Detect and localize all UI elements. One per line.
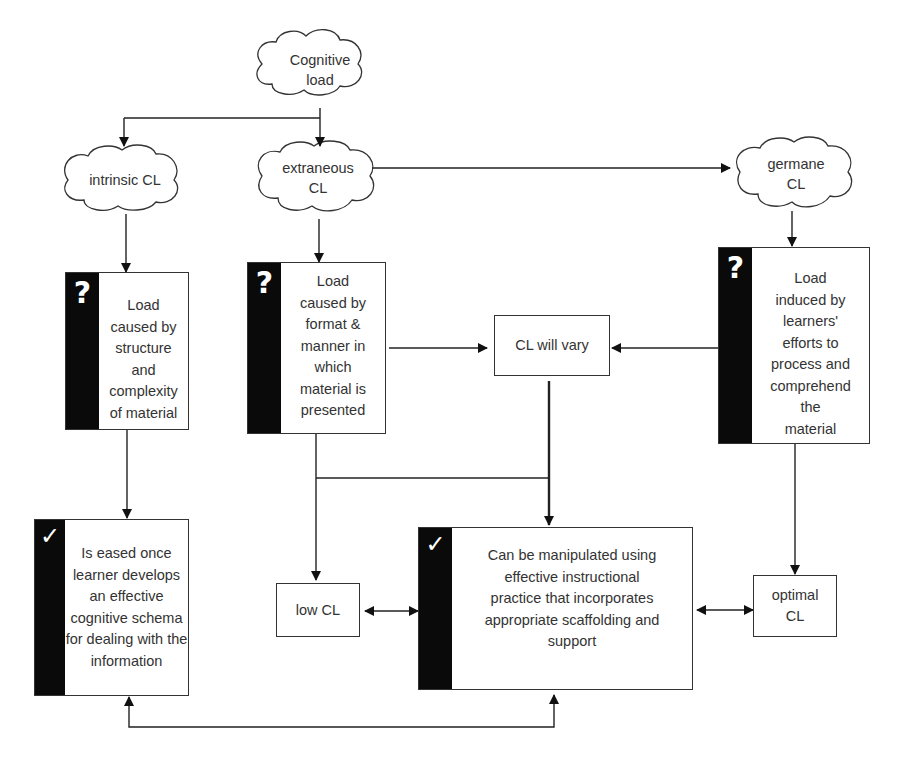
cl-will-vary-label: CL will vary — [515, 335, 589, 356]
text-line: cognitive schema — [66, 608, 188, 630]
checkmark-icon: ✓ — [35, 522, 65, 550]
root-label: Cognitive load — [270, 50, 370, 90]
optimal-cl-line2: CL — [772, 606, 819, 627]
text-line: Load — [109, 295, 178, 317]
root-label-line1: Cognitive — [270, 50, 370, 70]
intrinsic-description-bar: ? — [66, 273, 99, 429]
text-line: format & — [300, 314, 366, 336]
text-line: induced by — [770, 290, 851, 312]
text-line: caused by — [300, 293, 366, 315]
optimal-cl-box: optimal CL — [753, 575, 837, 637]
text-line: structure — [109, 338, 178, 360]
eased-outcome-bar: ✓ — [35, 520, 65, 695]
extraneous-description-text: Load caused by format & manner in which … — [281, 263, 385, 433]
intrinsic-description-text: Load caused by structure and complexity … — [99, 273, 188, 429]
germane-description-bar: ? — [719, 248, 752, 443]
text-line: complexity — [109, 381, 178, 403]
germane-cl-label: germane CL — [744, 154, 848, 194]
text-line: Load — [300, 271, 366, 293]
text-line: which — [300, 357, 366, 379]
germane-description-text: Load induced by learners' efforts to pro… — [752, 248, 869, 443]
low-cl-box: low CL — [276, 583, 360, 637]
manipulated-outcome-text: Can be manipulated using effective instr… — [452, 528, 692, 689]
cl-will-vary-box: CL will vary — [494, 315, 610, 376]
extraneous-cl-label: extraneous CL — [266, 158, 370, 198]
germane-cl-line2: CL — [744, 174, 848, 194]
question-mark-icon: ? — [719, 250, 752, 285]
text-line: of material — [109, 403, 178, 425]
question-mark-icon: ? — [248, 265, 281, 300]
text-line: support — [485, 631, 660, 653]
text-line: efforts to — [770, 333, 851, 355]
text-line: an effective — [66, 586, 188, 608]
text-line: effective instructional — [485, 567, 660, 589]
text-line: information — [66, 651, 188, 673]
extraneous-cl-line1: extraneous — [266, 158, 370, 178]
text-line: learner develops — [66, 565, 188, 587]
text-line: learners' — [770, 311, 851, 333]
intrinsic-description-box: ? Load caused by structure and complexit… — [65, 272, 189, 430]
extraneous-cl-line2: CL — [266, 178, 370, 198]
extraneous-description-box: ? Load caused by format & manner in whic… — [247, 262, 386, 434]
intrinsic-cl-label: intrinsic CL — [70, 170, 180, 190]
cropped-text-fragment — [0, 0, 902, 4]
text-line: Load — [770, 268, 851, 290]
text-line: appropriate scaffolding and — [485, 610, 660, 632]
manipulated-outcome-box: ✓ Can be manipulated using effective ins… — [418, 527, 693, 690]
text-line: and — [109, 360, 178, 382]
question-mark-icon: ? — [66, 275, 99, 310]
text-line: caused by — [109, 317, 178, 339]
optimal-cl-line1: optimal — [772, 585, 819, 606]
text-line: comprehend — [770, 376, 851, 398]
germane-description-box: ? Load induced by learners' efforts to p… — [718, 247, 870, 444]
eased-outcome-box: ✓ Is eased once learner develops an effe… — [34, 519, 189, 696]
low-cl-label: low CL — [296, 600, 340, 621]
text-line: practice that incorporates — [485, 588, 660, 610]
extraneous-description-bar: ? — [248, 263, 281, 433]
text-line: the — [770, 397, 851, 419]
text-line: material is — [300, 379, 366, 401]
checkmark-icon: ✓ — [419, 530, 452, 558]
text-line: material — [770, 419, 851, 441]
text-line: presented — [300, 400, 366, 422]
germane-cl-line1: germane — [744, 154, 848, 174]
text-line: Is eased once — [66, 543, 188, 565]
root-label-line2: load — [270, 70, 370, 90]
text-line: process and — [770, 354, 851, 376]
eased-outcome-text: Is eased once learner develops an effect… — [65, 520, 188, 695]
text-line: manner in — [300, 336, 366, 358]
text-line: for dealing with the — [66, 629, 188, 651]
manipulated-outcome-bar: ✓ — [419, 528, 452, 689]
intrinsic-cl-text: intrinsic CL — [70, 170, 180, 190]
text-line: Can be manipulated using — [485, 545, 660, 567]
